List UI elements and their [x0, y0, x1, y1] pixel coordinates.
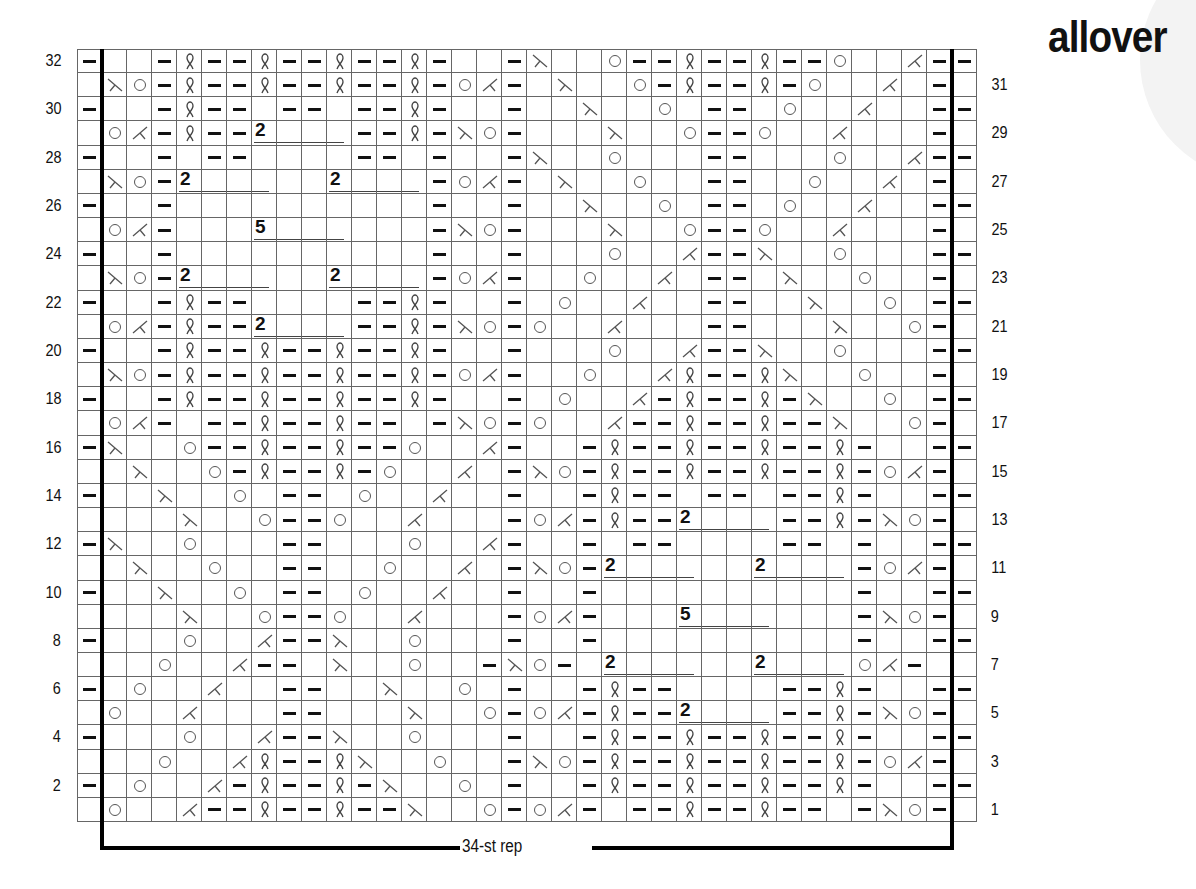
twisted-knit-cell — [677, 798, 702, 822]
purl-icon — [958, 494, 971, 497]
knit-cell — [802, 363, 827, 387]
purl-cell — [377, 49, 402, 73]
purl-icon — [958, 736, 971, 739]
grid-line — [252, 145, 352, 146]
knit-cell — [902, 484, 927, 508]
purl-icon — [433, 108, 446, 111]
knit-cell — [127, 798, 152, 822]
purl-cell — [927, 387, 952, 411]
knit-cell — [827, 798, 852, 822]
right-slant-decrease-icon — [877, 605, 902, 629]
grid-line — [677, 724, 777, 725]
twisted-stitch-icon — [177, 339, 202, 363]
knit-cell — [877, 218, 902, 242]
grid-line — [301, 121, 302, 145]
twisted-stitch-icon — [752, 387, 777, 411]
purl-icon — [733, 132, 746, 135]
purl-icon — [808, 519, 821, 522]
purl-cell — [352, 121, 377, 145]
left-slant-decrease-icon — [202, 774, 227, 798]
twisted-stitch-icon — [252, 460, 277, 484]
purl-icon — [708, 325, 721, 328]
purl-icon — [308, 398, 321, 401]
purl-cell — [502, 242, 527, 266]
purl-icon — [658, 519, 671, 522]
purl-icon — [283, 664, 296, 667]
twisted-stitch-icon — [677, 73, 702, 97]
chart-row — [77, 363, 977, 387]
knit-cell — [102, 484, 127, 508]
purl-icon — [508, 470, 521, 473]
purl-icon — [808, 446, 821, 449]
right-decrease-cell — [102, 363, 127, 387]
purl-cell — [777, 798, 802, 822]
purl-cell — [577, 460, 602, 484]
purl-icon — [933, 84, 946, 87]
yarn-over-cell — [402, 532, 427, 556]
knit-cell — [327, 242, 352, 266]
knit-cell — [602, 266, 627, 290]
left-slant-decrease-icon — [827, 218, 852, 242]
purl-icon — [158, 374, 171, 377]
grid-line — [751, 508, 752, 532]
left-decrease-cell — [652, 363, 677, 387]
purl-cell — [377, 73, 402, 97]
purl-icon — [708, 784, 721, 787]
knit-cell — [627, 194, 652, 218]
cable-underline — [179, 287, 269, 288]
chart-row — [77, 581, 977, 605]
purl-icon — [208, 156, 221, 159]
knit-cell — [202, 484, 227, 508]
cable-count: 2 — [605, 554, 616, 576]
purl-icon — [708, 108, 721, 111]
knit-cell — [702, 653, 727, 677]
twisted-stitch-icon — [177, 73, 202, 97]
purl-cell — [627, 508, 652, 532]
purl-cell — [152, 97, 177, 121]
twisted-stitch-icon — [327, 339, 352, 363]
purl-icon — [283, 760, 296, 763]
purl-cell — [302, 411, 327, 435]
twisted-stitch-icon — [602, 725, 627, 749]
purl-icon — [383, 108, 396, 111]
purl-cell — [627, 774, 652, 798]
purl-cell — [252, 653, 277, 677]
twisted-stitch-icon — [602, 484, 627, 508]
twisted-knit-cell — [602, 725, 627, 749]
right-slant-decrease-icon — [377, 677, 402, 701]
cable-underline — [679, 722, 769, 723]
right-decrease-cell — [452, 218, 477, 242]
purl-icon — [933, 277, 946, 280]
purl-icon — [508, 808, 521, 811]
purl-icon — [708, 84, 721, 87]
twisted-knit-cell — [752, 387, 777, 411]
purl-cell — [352, 774, 377, 798]
twisted-stitch-icon — [677, 411, 702, 435]
knit-cell — [877, 315, 902, 339]
knit-cell — [77, 266, 102, 290]
right-decrease-cell — [102, 436, 127, 460]
knit-cell — [202, 653, 227, 677]
twisted-knit-cell — [602, 460, 627, 484]
knit-cell — [152, 605, 177, 629]
knit-cell — [402, 750, 427, 774]
grid-line — [776, 556, 777, 580]
purl-icon — [783, 736, 796, 739]
page-title: allover — [1048, 12, 1167, 62]
knit-cell — [552, 725, 577, 749]
knit-cell — [527, 581, 552, 605]
repeat-label: 34-st rep — [462, 836, 522, 857]
grid-line — [351, 170, 352, 194]
cable-underline — [329, 191, 419, 192]
knit-cell — [77, 556, 102, 580]
cable-underline — [754, 577, 844, 578]
purl-icon — [383, 132, 396, 135]
purl-cell — [302, 460, 327, 484]
purl-cell — [927, 484, 952, 508]
cable-count: 5 — [680, 603, 691, 625]
grid-line — [226, 266, 227, 290]
right-slant-decrease-icon — [102, 436, 127, 460]
knit-cell — [427, 798, 452, 822]
twisted-knit-cell — [327, 73, 352, 97]
knit-cell — [777, 605, 802, 629]
